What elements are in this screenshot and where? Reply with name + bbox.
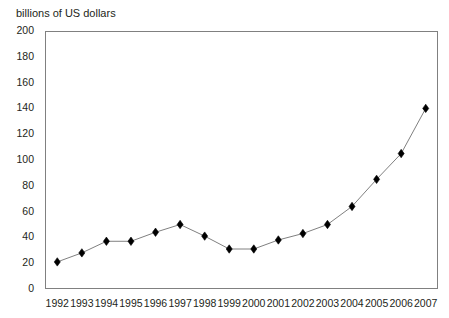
data-point-marker [103,237,109,245]
y-axis-tick-label: 0 [0,283,34,294]
data-point-marker [177,220,183,228]
data-point-marker [153,228,159,236]
data-point-marker [128,237,134,245]
x-axis-tick-label: 2007 [409,298,443,309]
data-point-marker [202,232,208,240]
y-axis-tick-label: 140 [0,102,34,113]
y-axis-tick-label: 100 [0,154,34,165]
y-axis-tick-label: 180 [0,51,34,62]
y-axis-tick-label: 80 [0,180,34,191]
y-axis-tick-label: 60 [0,206,34,217]
data-point-marker [79,249,85,257]
y-axis-tick-label: 20 [0,257,34,268]
plot-area [45,31,438,289]
chart-container: billions of US dollars 02040608010012014… [0,0,449,318]
data-point-markers [54,104,428,266]
chart-axes [45,31,438,289]
y-axis-tick-label: 40 [0,231,34,242]
chart-plot-svg [45,31,438,289]
data-point-marker [324,220,330,228]
y-axis-tick-label: 160 [0,77,34,88]
data-series-line [57,108,425,262]
data-point-marker [54,258,60,266]
y-axis-tick-label: 120 [0,128,34,139]
data-point-marker [226,245,232,253]
y-axis-tick-label: 200 [0,25,34,36]
data-point-marker [300,229,306,237]
data-point-marker [275,236,281,244]
data-point-marker [251,245,257,253]
y-axis-title: billions of US dollars [16,7,116,20]
